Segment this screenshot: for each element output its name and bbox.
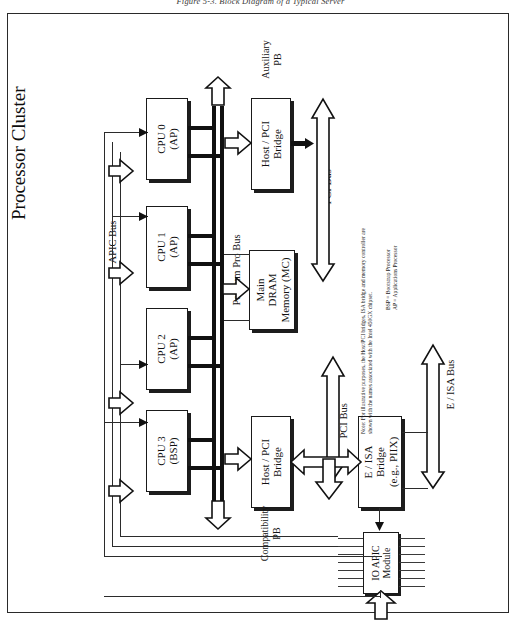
cpu2-bus-stub-a (188, 336, 214, 340)
cpu2-bus-stub-b (188, 364, 222, 368)
pci-bus-top-arrow (311, 96, 335, 282)
ioapic-irq-line (338, 546, 363, 547)
io-apic-module[interactable]: IO APICModule (363, 532, 399, 594)
ioapic-irq-line (338, 578, 363, 579)
ioapic-irq-line (399, 578, 425, 579)
host-pci-bridge-auxiliary-label: Host / PCIBridge (259, 121, 284, 167)
apic-return-trace-bottom-4 (104, 596, 380, 597)
ioapic-irq-line (399, 570, 425, 571)
apic-hollow-arrow-2 (108, 390, 134, 416)
ioapic-irq-line (399, 546, 425, 547)
apic-return-trace-bottom-2 (112, 546, 338, 547)
ppro-to-aux-bridge-arrow (224, 130, 252, 156)
ppro-bus-arrow-top (205, 76, 231, 106)
cpu1-bus-stub-a (188, 234, 214, 238)
cpu0-bus-stub-a (188, 126, 214, 130)
main-dram-memory[interactable]: MainDRAMMemory (MC) (249, 250, 295, 330)
ioapic-irq-line (338, 538, 363, 539)
ioapic-irq-line (399, 586, 425, 587)
ioapic-irq-line (338, 562, 363, 563)
eisa-bridge-bus-connector-bottom (402, 488, 428, 489)
memory-bus-connector-bottom (224, 320, 250, 321)
aux-bridge-to-pci-connector (291, 138, 315, 150)
compatibility-pb-caption: CompatibilityPB (259, 486, 282, 582)
illustrative-note-line2: shown with the names associated with the… (366, 292, 374, 434)
ioapic-irq-line (399, 554, 425, 555)
apic-arrowhead-2 (139, 359, 149, 370)
eisa-bridge-bus-connector-top (402, 432, 428, 433)
apic-return-riser (380, 590, 381, 598)
apic-hollow-arrow-0 (108, 158, 134, 184)
cpu-label-1: CPU 1(AP) (155, 232, 180, 262)
figure-frame: Processor Cluster CPU 0(AP) CPU 1(AP) CP… (7, 13, 509, 613)
legend-ap: AP = Applications Processor (391, 246, 400, 310)
eisa-to-ioapic-arrowhead (374, 522, 385, 533)
apic-arrowhead-1 (139, 211, 149, 222)
main-dram-memory-label: MainDRAMMemory (MC) (254, 257, 291, 322)
cpu-label-2: CPU 2(AP) (155, 334, 180, 364)
apic-hollow-arrow-3 (108, 478, 134, 504)
cpu-box-3[interactable]: CPU 3(BSP) (146, 410, 188, 492)
apic-return-trace-bottom-3 (120, 536, 338, 537)
ioapic-irq-line (338, 554, 363, 555)
apic-arrowhead-3 (139, 417, 149, 428)
ioapic-irq-line (399, 538, 425, 539)
ioapic-irq-line (399, 562, 425, 563)
cpu-box-1[interactable]: CPU 1(AP) (146, 206, 188, 288)
memory-bus-connector-top (224, 254, 250, 255)
eisa-bus-arrow (421, 342, 445, 490)
ppro-bus-arrow-bottom (205, 500, 231, 530)
ioapic-irq-line (338, 570, 363, 571)
figure-caption: Figure 5-3. Block Diagram of a Typical S… (0, 0, 521, 6)
eisa-bridge-label: E / ISABridge(e.g., PIIX) (362, 437, 399, 487)
cpu0-bus-stub-b (188, 154, 222, 158)
cpu1-bus-stub-b (188, 262, 222, 266)
apic-bus-trunk-1 (104, 132, 105, 556)
cpu-label-0: CPU 0(AP) (155, 124, 180, 154)
apic-return-trace-bottom-1 (104, 556, 382, 557)
ppro-to-memory-arrow (222, 276, 250, 302)
cpu-box-2[interactable]: CPU 2(AP) (146, 308, 188, 390)
apic-arrowhead-0 (139, 127, 149, 138)
cpu-label-3: CPU 3(BSP) (155, 436, 180, 466)
auxiliary-pb-caption: AuxiliaryPB (260, 28, 283, 92)
eisa-bus-label: E / ISA Bus (445, 334, 456, 410)
host-pci-bridge-auxiliary[interactable]: Host / PCIBridge (251, 98, 291, 190)
cpu-box-0[interactable]: CPU 0(AP) (146, 98, 188, 180)
pci-junction-down-arrow (315, 458, 343, 500)
ppro-to-compat-bridge-arrow (224, 446, 252, 472)
io-apic-module-label: IO APICModule (370, 545, 392, 580)
ioapic-irq-line (338, 586, 363, 587)
cpu3-bus-stub-b (188, 466, 222, 470)
host-pci-bridge-compatibility-label: Host / PCIBridge (259, 439, 284, 485)
cpu3-bus-stub-a (188, 438, 214, 442)
apic-hollow-arrow-1 (108, 260, 134, 286)
pentium-pro-bus-trunk (212, 106, 216, 512)
